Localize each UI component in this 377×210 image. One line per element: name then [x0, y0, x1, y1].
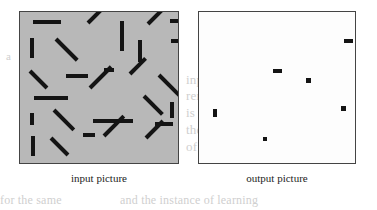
input-line-segment: [53, 109, 76, 132]
input-line-segment: [66, 74, 88, 78]
input-line-segment: [34, 96, 68, 100]
page-bleed-text: for the same: [0, 193, 62, 208]
output-mark: [273, 69, 282, 73]
output-mark: [306, 78, 311, 83]
output-mark: [341, 106, 346, 111]
input-segment-layer: [20, 12, 178, 163]
input-line-segment: [89, 65, 113, 89]
input-picture-panel: [19, 11, 179, 164]
output-mark: [263, 137, 267, 141]
input-line-segment: [30, 113, 34, 125]
input-line-segment: [29, 70, 49, 90]
page-bleed-text: is: [186, 105, 195, 121]
output-mark-layer: [199, 12, 355, 163]
input-line-segment: [170, 102, 174, 118]
input-line-segment: [158, 74, 178, 98]
page-bleed-text: a: [6, 50, 11, 62]
input-line-segment: [30, 38, 34, 58]
input-line-segment: [31, 136, 35, 156]
input-line-segment: [83, 133, 95, 137]
input-line-segment: [33, 20, 61, 24]
input-line-segment: [120, 21, 124, 51]
output-picture-panel: [198, 11, 356, 164]
input-line-segment: [50, 137, 70, 157]
input-line-segment: [55, 38, 79, 62]
input-line-segment: [170, 19, 178, 23]
page-bleed-text: of: [186, 139, 197, 155]
input-line-segment: [171, 39, 178, 43]
input-line-segment: [87, 12, 108, 24]
input-line-segment: [147, 12, 165, 25]
output-mark: [344, 39, 353, 43]
input-line-segment: [143, 95, 164, 116]
figure-root: ainptremainistheoffor the sameand the in…: [0, 0, 377, 210]
output-picture-caption: output picture: [198, 172, 356, 184]
input-picture-caption: input picture: [19, 172, 179, 184]
output-mark: [213, 109, 217, 117]
page-bleed-text: and the instance of learning: [120, 193, 258, 208]
